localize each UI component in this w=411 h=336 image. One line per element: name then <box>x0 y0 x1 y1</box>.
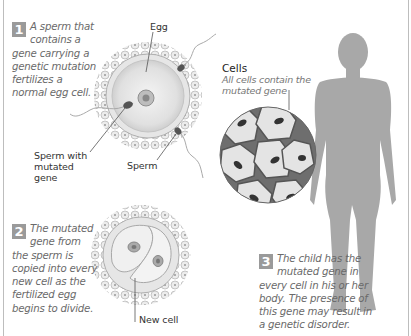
sperm-label: Sperm <box>127 160 157 171</box>
step-3-caption: 3 The child has the mutated gene in ever… <box>259 252 374 332</box>
new-cell-label: New cell <box>139 314 178 325</box>
step-3-badge: 3 <box>259 254 273 269</box>
cells-subtitle: All cells contain the mutated gene <box>222 74 312 96</box>
cells-title: Cells <box>222 62 247 74</box>
magnified-cells <box>220 104 316 216</box>
step-2-badge: 2 <box>12 224 26 239</box>
step-1-caption: 1 A sperm that contains a gene carrying … <box>12 20 100 100</box>
step-2-caption: 2 The mutated gene from the sperm is cop… <box>12 222 98 315</box>
egg-cell-illustration <box>94 42 202 150</box>
step-3-text: The child has the mutated gene in every … <box>259 253 372 330</box>
dividing-egg-illustration <box>91 205 191 305</box>
step-1-badge: 1 <box>12 22 26 37</box>
sperm-mutated-label: Sperm with mutated gene <box>34 150 96 183</box>
egg-label: Egg <box>150 21 168 32</box>
